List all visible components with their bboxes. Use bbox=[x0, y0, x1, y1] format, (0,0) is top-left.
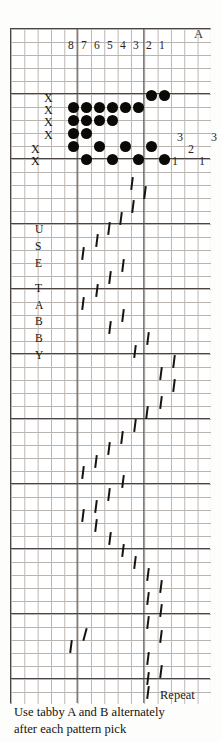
tabby-letter-s: S bbox=[35, 241, 41, 253]
threading-dot bbox=[68, 102, 79, 113]
threading-dot bbox=[146, 141, 157, 152]
threading-dot bbox=[120, 102, 131, 113]
tabby-letter-b1: B bbox=[35, 316, 43, 328]
threading-dot bbox=[94, 102, 105, 113]
treadle-number-inner-3: 3 bbox=[177, 131, 183, 143]
threading-dot bbox=[107, 102, 118, 113]
weaving-draft-page: 8 7 6 5 4 3 2 1 A X X X X X X 3 2 1 3 1 … bbox=[0, 0, 221, 742]
caption-line-1: Use tabby A and B alternately bbox=[14, 704, 210, 721]
shaft-number-6: 6 bbox=[94, 40, 100, 52]
tie-up-x-6: X bbox=[31, 155, 40, 167]
threading-dot bbox=[94, 115, 105, 126]
tabby-letter-u: U bbox=[35, 224, 43, 236]
treadle-number-inner-2: 2 bbox=[188, 143, 194, 155]
threading-dot bbox=[159, 154, 170, 165]
tabby-letter-b2: B bbox=[35, 333, 43, 345]
threading-dot bbox=[81, 115, 92, 126]
repeat-label: Repeat bbox=[160, 688, 195, 703]
shaft-number-2: 2 bbox=[146, 40, 152, 52]
tie-up-x-4: X bbox=[44, 129, 53, 141]
threading-dot bbox=[133, 154, 144, 165]
threading-dot bbox=[81, 102, 92, 113]
shaft-number-4: 4 bbox=[120, 40, 126, 52]
threading-dot bbox=[68, 141, 79, 152]
threading-dot bbox=[94, 141, 105, 152]
shaft-number-1: 1 bbox=[159, 40, 165, 52]
shaft-number-7: 7 bbox=[81, 40, 87, 52]
shaft-number-8: 8 bbox=[68, 40, 74, 52]
tabby-letter-t: T bbox=[35, 283, 42, 295]
caption-line-2: after each pattern pick bbox=[14, 721, 210, 738]
threading-dot bbox=[81, 154, 92, 165]
tabby-a-label: A bbox=[194, 28, 203, 41]
threading-dot bbox=[107, 154, 118, 165]
threading-dot bbox=[159, 90, 170, 101]
tabby-letter-e: E bbox=[35, 258, 42, 270]
threading-dot bbox=[120, 141, 131, 152]
shaft-number-5: 5 bbox=[107, 40, 113, 52]
treadle-number-outer-1: 1 bbox=[199, 155, 205, 167]
instruction-caption: Use tabby A and B alternately after each… bbox=[14, 704, 210, 737]
threading-dot bbox=[146, 90, 157, 101]
tabby-letter-a: A bbox=[35, 300, 43, 312]
threading-dot bbox=[81, 128, 92, 139]
threading-dot bbox=[107, 115, 118, 126]
tabby-letter-y: Y bbox=[35, 350, 43, 362]
threading-dot bbox=[133, 102, 144, 113]
tie-up-x-3: X bbox=[44, 116, 53, 128]
shaft-number-3: 3 bbox=[133, 40, 139, 52]
treadle-number-outer-3: 3 bbox=[211, 131, 217, 143]
threading-dot bbox=[68, 115, 79, 126]
treadle-number-inner-1: 1 bbox=[172, 155, 178, 167]
threading-dot bbox=[68, 128, 79, 139]
